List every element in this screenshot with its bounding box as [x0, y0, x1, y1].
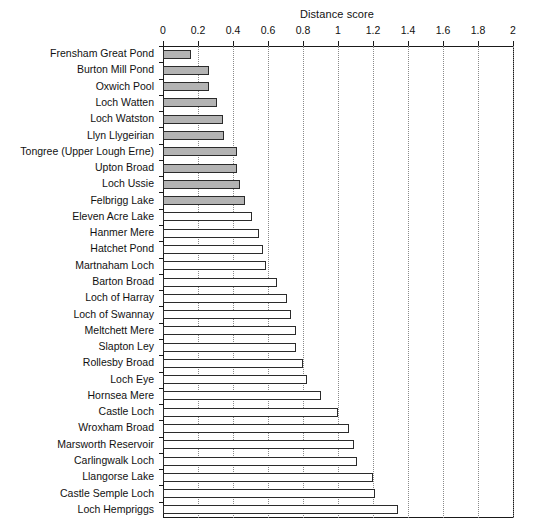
category-tick-mark: [159, 485, 163, 486]
category-label: Loch Ussie: [102, 177, 154, 189]
category-label: Hornsea Mere: [87, 389, 154, 401]
x-tick-mark: [268, 41, 269, 46]
bar: [163, 326, 296, 335]
category-label: Castle Loch: [99, 405, 154, 417]
chart-title: Distance score: [0, 8, 534, 20]
category-label: Loch Watten: [95, 96, 154, 108]
category-label: Burton Mill Pond: [77, 63, 154, 75]
x-tick-label: 1.6: [436, 24, 451, 36]
bar: [163, 229, 259, 238]
bar: [163, 489, 375, 498]
x-tick-label: 0.2: [191, 24, 206, 36]
bar: [163, 147, 237, 156]
bar: [163, 180, 240, 189]
bar: [163, 261, 266, 270]
bar: [163, 164, 237, 173]
category-tick-mark: [159, 453, 163, 454]
x-tick-label: 0.8: [296, 24, 311, 36]
x-tick-label: 0: [160, 24, 166, 36]
x-tick-mark: [408, 41, 409, 46]
bar: [163, 66, 209, 75]
category-tick-mark: [159, 502, 163, 503]
x-tick-mark: [163, 41, 164, 46]
gridline: [373, 46, 374, 518]
category-label: Rollesby Broad: [83, 356, 154, 368]
x-tick-mark: [338, 41, 339, 46]
x-tick-label: 1.4: [401, 24, 416, 36]
category-tick-mark: [159, 339, 163, 340]
x-tick-label: 1: [335, 24, 341, 36]
gridline: [408, 46, 409, 518]
category-tick-mark: [159, 225, 163, 226]
bar: [163, 359, 303, 368]
bar: [163, 82, 209, 91]
category-label: Loch Hempriggs: [78, 503, 154, 515]
x-tick-label: 0.6: [261, 24, 276, 36]
x-tick-mark: [303, 41, 304, 46]
category-label: Loch of Harray: [85, 291, 154, 303]
category-tick-mark: [159, 241, 163, 242]
category-tick-mark: [159, 46, 163, 47]
x-tick-mark: [373, 41, 374, 46]
bar-chart-figure: Distance score Frensham Great PondBurton…: [0, 0, 534, 526]
category-tick-mark: [159, 95, 163, 96]
x-tick-mark: [478, 41, 479, 46]
category-label: Llyn Llygeirian: [87, 129, 154, 141]
x-tick-label: 2: [510, 24, 516, 36]
category-label: Tongree (Upper Lough Erne): [20, 145, 154, 157]
category-tick-mark: [159, 404, 163, 405]
category-tick-mark: [159, 372, 163, 373]
bar: [163, 50, 191, 59]
bar: [163, 196, 245, 205]
category-label: Frensham Great Pond: [50, 47, 154, 59]
category-label: Carlingwalk Loch: [74, 454, 154, 466]
category-tick-mark: [159, 290, 163, 291]
category-label: Upton Broad: [95, 161, 154, 173]
plot-area: 00.20.40.60.811.21.41.61.82: [163, 46, 514, 518]
category-tick-mark: [159, 274, 163, 275]
category-tick-mark: [159, 192, 163, 193]
bar: [163, 375, 307, 384]
x-tick-mark: [513, 41, 514, 46]
category-tick-mark: [159, 176, 163, 177]
category-label: Llangorse Lake: [82, 470, 154, 482]
category-tick-mark: [159, 127, 163, 128]
x-tick-label: 0.4: [226, 24, 241, 36]
gridline: [443, 46, 444, 518]
category-tick-mark: [159, 62, 163, 63]
category-label: Felbrigg Lake: [90, 194, 154, 206]
bar: [163, 457, 357, 466]
bar: [163, 424, 349, 433]
gridline: [513, 46, 514, 518]
category-label: Martnaham Loch: [75, 259, 154, 271]
category-label: Marsworth Reservoir: [57, 438, 154, 450]
bar: [163, 408, 338, 417]
x-tick-label: 1.2: [366, 24, 381, 36]
category-tick-mark: [159, 160, 163, 161]
category-tick-mark: [159, 355, 163, 356]
category-tick-mark: [159, 79, 163, 80]
category-label: Wroxham Broad: [78, 421, 154, 433]
category-label: Barton Broad: [92, 275, 154, 287]
bar: [163, 440, 354, 449]
x-tick-mark: [198, 41, 199, 46]
bar: [163, 505, 398, 514]
bar: [163, 115, 223, 124]
category-tick-mark: [159, 323, 163, 324]
category-axis-labels: Frensham Great PondBurton Mill PondOxwic…: [0, 46, 160, 518]
category-label: Hatchet Pond: [90, 242, 154, 254]
category-label: Loch of Swannay: [73, 308, 154, 320]
gridline: [478, 46, 479, 518]
category-label: Loch Watston: [90, 112, 154, 124]
category-label: Slapton Ley: [99, 340, 154, 352]
chart-title-text: Distance score: [300, 8, 374, 20]
category-label: Loch Eye: [110, 373, 154, 385]
bar: [163, 212, 252, 221]
category-label: Meltchett Mere: [85, 324, 154, 336]
category-tick-mark: [159, 469, 163, 470]
category-tick-mark: [159, 111, 163, 112]
x-tick-label: 1.8: [471, 24, 486, 36]
category-tick-mark: [159, 437, 163, 438]
bar: [163, 391, 321, 400]
bar: [163, 343, 296, 352]
